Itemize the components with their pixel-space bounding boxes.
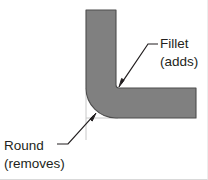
round-label-primary: Round <box>4 138 44 153</box>
round-label-secondary: (removes) <box>4 156 65 171</box>
round-arrowhead-icon <box>90 113 96 121</box>
fillet-label-primary: Fillet <box>160 36 189 51</box>
figure-container: Fillet (adds) Round (removes) <box>0 0 208 180</box>
annotation-fillet: Fillet (adds) <box>119 36 198 87</box>
fillet-leader-line <box>121 44 158 84</box>
diagram-svg: Fillet (adds) Round (removes) <box>0 0 208 180</box>
fillet-label-secondary: (adds) <box>160 54 198 69</box>
round-leader-line <box>57 116 93 144</box>
annotation-round: Round (removes) <box>4 113 96 171</box>
fillet-arrowhead-icon <box>119 78 124 87</box>
